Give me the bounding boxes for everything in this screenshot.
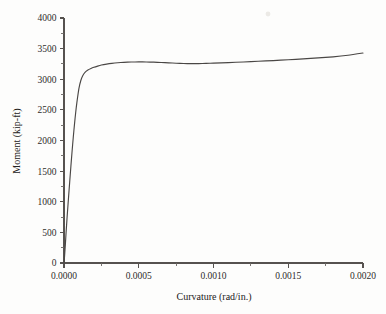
moment-curvature-chart: 05001000150020002500300035004000 0.00000… xyxy=(0,0,386,314)
y-tick-label: 1000 xyxy=(38,197,57,207)
y-tick-label: 4000 xyxy=(38,13,57,23)
x-tick-label: 0.0015 xyxy=(275,271,301,281)
y-tick-label: 2500 xyxy=(38,105,57,115)
chart-background xyxy=(0,0,386,314)
y-axis-title: Moment (kip-ft) xyxy=(11,108,23,173)
y-tick-label: 3500 xyxy=(38,44,57,54)
figure-container: 05001000150020002500300035004000 0.00000… xyxy=(0,0,386,314)
y-tick-label: 500 xyxy=(42,228,57,238)
x-axis-title: Curvature (rad/in.) xyxy=(177,291,252,303)
scan-artifact-speck xyxy=(266,12,271,17)
y-tick-label: 2000 xyxy=(38,136,57,146)
x-tick-label: 0.0010 xyxy=(200,271,226,281)
y-tick-label: 0 xyxy=(52,258,57,268)
x-tick-label: 0.0020 xyxy=(350,271,376,281)
y-tick-label: 3000 xyxy=(38,75,57,85)
x-tick-label: 0.0000 xyxy=(51,271,77,281)
y-tick-label: 1500 xyxy=(38,167,57,177)
x-tick-label: 0.0005 xyxy=(126,271,152,281)
